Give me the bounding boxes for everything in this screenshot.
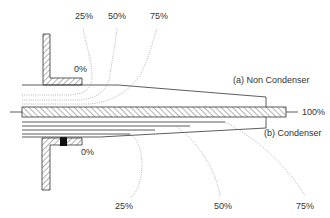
top-label-25: 25% [75,12,93,21]
bottom-label-0: 0% [81,148,94,157]
condenser-foils [22,117,266,137]
top-label-0: 0% [74,65,87,74]
top-flange [43,34,82,85]
top-label-75: 75% [150,12,168,21]
top-equipotential-lines [22,28,157,104]
label-non-condenser: (a) Non Condenser [233,76,310,85]
non-condenser-outline [22,85,266,107]
bottom-label-25: 25% [115,202,133,211]
label-condenser: (b) Condenser [264,129,322,138]
conductor [10,107,298,117]
bushing-diagram [0,0,330,218]
bottom-flange [42,137,82,190]
label-conductor-100: 100% [302,108,325,117]
seal-block [60,137,67,146]
bottom-label-50: 50% [214,202,232,211]
top-label-50: 50% [108,12,126,21]
bottom-label-75: 75% [296,202,314,211]
